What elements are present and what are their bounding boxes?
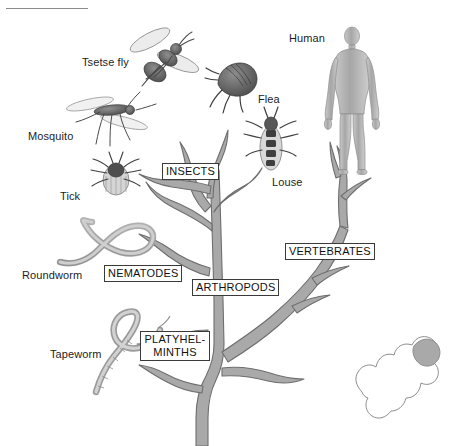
- mosquito-art: [65, 92, 156, 146]
- clade-label-nematodes: NEMATODES: [104, 265, 182, 282]
- human-art: [324, 27, 379, 175]
- caption-tsetse-fly: Tsetse fly: [82, 56, 129, 68]
- roundworm-art: [60, 220, 153, 263]
- clade-label-vertebrates: VERTEBRATES: [285, 243, 375, 260]
- caption-flea: Flea: [258, 93, 280, 105]
- caption-roundworm: Roundworm: [22, 269, 82, 281]
- caption-human: Human: [289, 32, 325, 44]
- top-rule: [6, 8, 88, 9]
- clade-label-arthropods: ARTHROPODS: [192, 279, 279, 296]
- clade-label-platyhelminths-line2: MINTHS: [144, 346, 206, 359]
- tree-artwork: [0, 0, 458, 446]
- tsetse-fly-art: [127, 23, 201, 86]
- caption-tick: Tick: [60, 190, 80, 202]
- louse-art: [244, 107, 298, 170]
- caption-louse: Louse: [272, 176, 302, 188]
- figure-canvas: Tsetse fly Mosquito Tick Flea Louse Huma…: [0, 0, 458, 446]
- tick-art: [91, 152, 141, 195]
- flea-art: [205, 63, 257, 113]
- clade-label-insects: INSECTS: [162, 163, 219, 180]
- caption-mosquito: Mosquito: [28, 130, 73, 142]
- tree-silhouette-inset: [356, 337, 440, 418]
- clade-label-platyhelminths-line1: PLATYHEL-: [144, 333, 206, 346]
- clade-label-platyhelminths: PLATYHEL- MINTHS: [140, 331, 210, 361]
- caption-tapeworm: Tapeworm: [50, 348, 102, 360]
